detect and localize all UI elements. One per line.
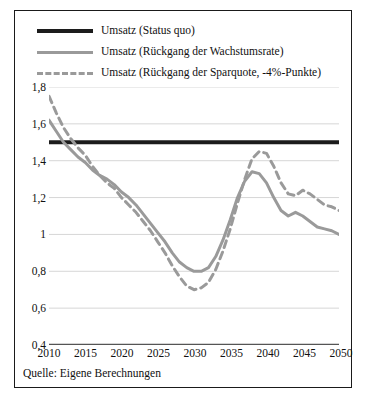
- legend-item-wachstumsrate: Umsatz (Rückgang der Wachstumsrate): [37, 42, 283, 62]
- legend-swatch-sparquote: [37, 67, 93, 79]
- legend-swatch-wachstumsrate: [37, 46, 93, 58]
- x-axis-tick-label: 2040: [257, 347, 280, 359]
- y-axis-tick-label: 1: [40, 228, 46, 240]
- y-axis-labels: 0,40,60,811,21,41,61,8: [15, 87, 49, 345]
- chart-legend: Umsatz (Status quo) Umsatz (Rückgang der…: [15, 19, 351, 87]
- legend-swatch-status-quo: [37, 25, 93, 37]
- legend-label-wachstumsrate: Umsatz (Rückgang der Wachstumsrate): [101, 46, 283, 58]
- legend-item-sparquote: Umsatz (Rückgang der Sparquote, -4%-Punk…: [37, 63, 321, 83]
- x-axis-tick-label: 2015: [74, 347, 97, 359]
- x-axis-tick-label: 2020: [111, 347, 134, 359]
- series-line-2: [49, 96, 339, 290]
- plot-area: [49, 87, 339, 345]
- x-axis-tick-label: 2035: [220, 347, 243, 359]
- x-axis-tick-label: 2025: [147, 347, 170, 359]
- x-axis-tick-label: 2010: [38, 347, 61, 359]
- x-axis-tick-label: 2030: [184, 347, 207, 359]
- chart-svg: [49, 87, 339, 345]
- x-axis-labels: 201020152020202520302035204020452050: [49, 347, 339, 365]
- y-axis-tick-label: 1,6: [32, 118, 46, 130]
- x-axis-tick-label: 2050: [330, 347, 353, 359]
- legend-item-status-quo: Umsatz (Status quo): [37, 21, 195, 41]
- y-axis-tick-label: 1,2: [32, 192, 46, 204]
- plot-area-wrapper: 0,40,60,811,21,41,61,8: [15, 87, 351, 345]
- source-note: Quelle: Eigene Berechnungen: [23, 367, 161, 379]
- legend-label-status-quo: Umsatz (Status quo): [101, 25, 195, 37]
- y-axis-tick-label: 1,4: [32, 155, 46, 167]
- y-axis-tick-label: 0,8: [32, 265, 46, 277]
- y-axis-tick-label: 0,6: [32, 302, 46, 314]
- legend-label-sparquote: Umsatz (Rückgang der Sparquote, -4%-Punk…: [101, 67, 321, 79]
- x-axis-tick-label: 2045: [293, 347, 316, 359]
- figure-frame: Umsatz (Status quo) Umsatz (Rückgang der…: [14, 10, 352, 388]
- y-axis-tick-label: 1,8: [32, 81, 46, 93]
